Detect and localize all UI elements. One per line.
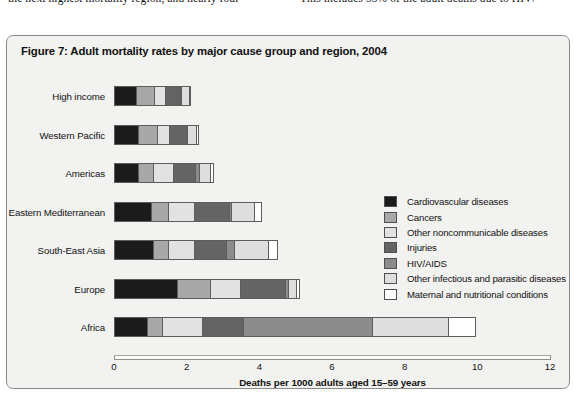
bar-segment xyxy=(166,86,181,106)
bar-segment xyxy=(244,317,373,337)
bar-segment xyxy=(289,279,297,299)
x-axis-label: Deaths per 1000 adults aged 15–59 years xyxy=(114,377,551,388)
bar-segment xyxy=(255,202,262,222)
x-tick-label: 4 xyxy=(257,361,262,372)
bar-segment xyxy=(154,163,174,183)
bar-segment xyxy=(269,240,278,260)
legend-label: Maternal and nutritional conditions xyxy=(407,289,548,300)
bar-segment xyxy=(297,279,299,299)
bar-segment xyxy=(241,279,286,299)
bar-row: Western Pacific xyxy=(114,125,550,145)
legend-item: Cancers xyxy=(384,209,566,224)
legend-swatch xyxy=(384,212,397,223)
bar-segment xyxy=(169,240,195,260)
x-tick-label: 0 xyxy=(111,361,116,372)
bar-segment xyxy=(114,202,152,222)
bar-segment xyxy=(114,125,139,145)
legend-swatch xyxy=(384,273,397,284)
bar-row: Americas xyxy=(114,163,550,183)
bar-segment xyxy=(197,125,199,145)
bar-segment xyxy=(235,240,268,260)
legend-label: Injuries xyxy=(407,242,437,253)
category-label: Americas xyxy=(65,168,105,179)
legend-swatch xyxy=(384,242,397,253)
legend-label: Other noncommunicable diseases xyxy=(407,227,548,238)
legend-swatch xyxy=(384,196,397,207)
legend-item: Cardiovascular diseases xyxy=(384,194,566,209)
bar-segment xyxy=(139,163,155,183)
x-tick-label: 2 xyxy=(184,361,189,372)
figure-container: Figure 7: Adult mortality rates by major… xyxy=(6,35,570,389)
bar-segment xyxy=(227,240,235,260)
bar-segment xyxy=(114,240,154,260)
bar-segment xyxy=(169,202,196,222)
legend-label: HIV/AIDS xyxy=(407,258,447,269)
legend-item: Maternal and nutritional conditions xyxy=(384,286,566,301)
chart-legend: Cardiovascular diseasesCancersOther nonc… xyxy=(384,194,566,302)
body-text-left-column: the next highest mortality region, and n… xyxy=(8,0,239,4)
x-tick-label: 10 xyxy=(472,361,483,372)
bar-segment xyxy=(195,202,230,222)
bar-segment xyxy=(154,240,169,260)
legend-swatch xyxy=(384,227,397,238)
category-label: Eastern Mediterranean xyxy=(9,206,105,217)
legend-swatch xyxy=(384,289,397,300)
bar-segment xyxy=(211,279,241,299)
bar-segment xyxy=(137,86,155,106)
category-label: High income xyxy=(52,91,105,102)
bar-segment xyxy=(188,125,196,145)
bar-row: Africa xyxy=(114,317,550,337)
category-label: South-East Asia xyxy=(38,245,105,256)
x-axis-line xyxy=(114,355,551,360)
legend-item: Other noncommunicable diseases xyxy=(384,225,566,240)
bar-segment xyxy=(232,202,255,222)
legend-label: Cancers xyxy=(407,212,442,223)
bar-segment xyxy=(211,163,214,183)
body-text-right-column: This includes 55% of the adult deaths du… xyxy=(300,0,536,4)
bar-segment xyxy=(373,317,449,337)
bar-segment xyxy=(148,317,163,337)
x-tick-label: 6 xyxy=(329,361,334,372)
bar-segment xyxy=(195,240,227,260)
x-tick-label: 12 xyxy=(545,361,556,372)
legend-label: Cardiovascular diseases xyxy=(407,196,508,207)
bar-segment xyxy=(178,279,211,299)
bar-segment xyxy=(174,163,196,183)
x-tick-label: 8 xyxy=(402,361,407,372)
legend-swatch xyxy=(384,258,397,269)
bar-segment xyxy=(114,163,139,183)
bar-row: High income xyxy=(114,86,550,106)
category-label: Europe xyxy=(74,283,105,294)
legend-item: Other infectious and parasitic diseases xyxy=(384,271,566,286)
bar-segment xyxy=(170,125,188,145)
category-label: Western Pacific xyxy=(39,129,105,140)
bar-segment xyxy=(158,125,170,145)
page-body-text-crop: the next highest mortality region, and n… xyxy=(0,0,577,20)
legend-item: Injuries xyxy=(384,240,566,255)
bar-segment xyxy=(152,202,169,222)
legend-label: Other infectious and parasitic diseases xyxy=(407,273,566,284)
bar-segment xyxy=(449,317,475,337)
bar-segment xyxy=(114,279,178,299)
bar-segment xyxy=(182,86,190,106)
figure-title: Figure 7: Adult mortality rates by major… xyxy=(21,45,387,57)
bar-segment xyxy=(139,125,157,145)
bar-segment xyxy=(114,86,137,106)
category-label: Africa xyxy=(81,322,105,333)
bar-segment xyxy=(203,317,244,337)
bar-segment xyxy=(163,317,203,337)
bar-segment xyxy=(190,86,191,106)
bar-segment xyxy=(114,317,148,337)
bar-segment xyxy=(155,86,166,106)
legend-item: HIV/AIDS xyxy=(384,256,566,271)
bar-segment xyxy=(200,163,211,183)
